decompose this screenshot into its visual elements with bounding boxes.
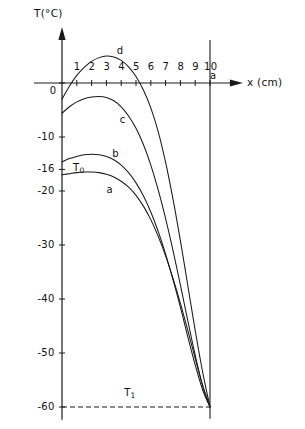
x-tick-label-4: 4 bbox=[118, 62, 125, 72]
x-tick-label-7: 7 bbox=[163, 62, 170, 72]
y-tick-label-neg40: -40 bbox=[37, 294, 54, 304]
curve-b bbox=[62, 154, 210, 407]
y-tick-label-neg30: -30 bbox=[37, 240, 54, 250]
y-tick-label-neg20: -20 bbox=[37, 186, 54, 196]
x-tick-label-9: 9 bbox=[192, 62, 199, 72]
y-tick-label-neg16: -16 bbox=[37, 164, 54, 174]
curve-label-a: a bbox=[106, 185, 112, 195]
y-tick-label-neg10: -10 bbox=[37, 132, 54, 142]
x-axis-title: x (cm) bbox=[247, 77, 283, 88]
x-tick-label-1: 1 bbox=[74, 62, 81, 72]
y-axis-arrow bbox=[58, 27, 65, 40]
y-tick-label-neg50: -50 bbox=[37, 348, 54, 358]
curve-a bbox=[62, 172, 210, 407]
x-tick-label-2: 2 bbox=[89, 62, 96, 72]
annotation-T0: T0 bbox=[73, 163, 85, 173]
temperature-profile-chart: 123456789100-10-16-20-30-40-50-60abcdT(°… bbox=[0, 0, 305, 429]
x-tick-label-5: 5 bbox=[133, 62, 140, 72]
y-axis-title: T(°C) bbox=[34, 8, 63, 19]
curve-label-c: c bbox=[120, 115, 126, 125]
annotation-T1: T1 bbox=[124, 388, 136, 398]
curve-label-b: b bbox=[112, 149, 119, 159]
x-tick-label-8: 8 bbox=[177, 62, 184, 72]
curve-label-d: d bbox=[117, 46, 124, 56]
x-axis-arrow bbox=[230, 79, 243, 86]
x-tick-label-3: 3 bbox=[103, 62, 110, 72]
y-tick-label-0: 0 bbox=[50, 86, 57, 96]
curve-c bbox=[62, 96, 210, 407]
x-tick-label-6: 6 bbox=[148, 62, 155, 72]
y-tick-label-neg60: -60 bbox=[37, 402, 54, 412]
curve-d bbox=[62, 56, 210, 407]
annotation-wall: a bbox=[210, 71, 216, 81]
